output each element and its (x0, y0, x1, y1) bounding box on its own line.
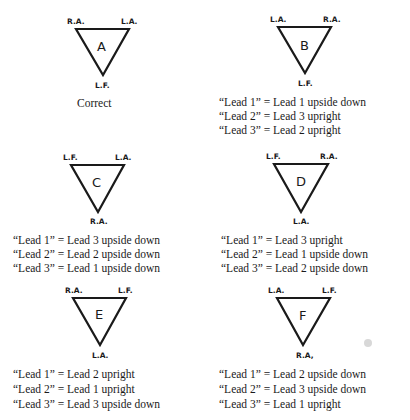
panel-letter: A (97, 39, 106, 54)
caption-line: “Lead 2” = Lead 2 upside down (13, 248, 160, 261)
bottom-electrode-label: R.A, (296, 351, 314, 360)
caption-line: “Lead 1” = Lead 3 upside down (13, 234, 160, 247)
lead-reversal-diagram: R.A. L.A. A L.F. Correct L.A. R.A. B L.F… (0, 0, 410, 420)
caption-line: Correct (77, 97, 112, 109)
caption-line: “Lead 3” = Lead 3 upside down (13, 398, 160, 411)
panel-a: R.A. L.A. A L.F. Correct (67, 17, 138, 109)
panel-letter: C (92, 175, 101, 190)
caption-line: “Lead 1” = Lead 1 upside down (219, 96, 366, 109)
caption-line: “Lead 1” = Lead 3 upright (221, 234, 344, 247)
panel-b: L.A. R.A. B L.F. “Lead 1” = Lead 1 upsid… (219, 15, 366, 137)
caption-line: “Lead 3” = Lead 1 upright (219, 398, 342, 411)
caption-line: “Lead 2” = Lead 1 upright (13, 383, 136, 396)
caption-line: “Lead 3” = Lead 2 upright (219, 124, 342, 137)
caption-line: “Lead 3” = Lead 2 upside down (221, 262, 368, 275)
bottom-electrode-label: L.A. (92, 351, 109, 360)
panel-letter: D (296, 174, 306, 189)
panel-f: L.A. L.F. F R.A, “Lead 1” = Lead 2 upsid… (219, 286, 366, 411)
bottom-electrode-label: R.A. (90, 217, 108, 226)
bottom-electrode-label: L.F. (95, 81, 110, 90)
scan-speck (364, 339, 372, 347)
top-right-electrode-label: R.A. (320, 152, 338, 161)
caption-line: “Lead 2” = Lead 3 upside down (219, 383, 366, 396)
panel-e: R.A. L.F. E L.A. “Lead 1” = Lead 2 uprig… (13, 286, 160, 411)
top-left-electrode-label: L.F. (63, 153, 78, 162)
top-right-electrode-label: L.A. (121, 17, 138, 26)
panel-c: L.F. L.A. C R.A. “Lead 1” = Lead 3 upsid… (13, 153, 160, 275)
top-right-electrode-label: L.F. (322, 286, 337, 295)
top-left-electrode-label: L.A. (270, 15, 287, 24)
top-left-electrode-label: L.A. (268, 286, 285, 295)
caption-line: “Lead 1” = Lead 2 upright (13, 368, 136, 381)
caption-line: “Lead 2” = Lead 3 upright (219, 110, 342, 123)
top-right-electrode-label: L.A. (115, 153, 132, 162)
bottom-electrode-label: L.A. (293, 217, 310, 226)
top-right-electrode-label: L.F. (118, 286, 133, 295)
caption-line: “Lead 2” = Lead 1 upside down (221, 248, 368, 261)
top-left-electrode-label: L.F. (266, 152, 281, 161)
caption-line: “Lead 3” = Lead 1 upside down (13, 262, 160, 275)
top-left-electrode-label: R.A. (65, 286, 83, 295)
top-left-electrode-label: R.A. (67, 17, 85, 26)
panel-letter: B (300, 38, 309, 53)
caption-line: “Lead 1” = Lead 2 upside down (219, 368, 366, 381)
panel-letter: F (299, 308, 306, 323)
panel-letter: E (95, 307, 103, 322)
top-right-electrode-label: R.A. (323, 15, 341, 24)
bottom-electrode-label: L.F. (298, 79, 313, 88)
panel-d: L.F. R.A. D L.A. “Lead 1” = Lead 3 uprig… (221, 152, 368, 275)
